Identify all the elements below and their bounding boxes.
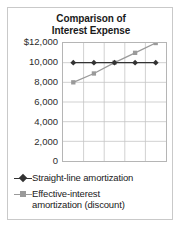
plot-region: $12,000 10,000 8,000 6,000 4,000 2,000 0 [8,42,174,168]
legend-item-straight-line[interactable]: Straight-line amortization [14,172,172,185]
data-point-0-1 [91,60,97,66]
plot-svg [63,43,166,161]
y-axis-tick-4000: 4,000 [8,117,58,127]
legend-marker-effective-interest-icon [14,189,32,201]
y-axis-labels: $12,000 10,000 8,000 6,000 4,000 2,000 0 [8,42,60,162]
data-point-1-0 [71,80,75,84]
y-axis-tick-12000: $12,000 [8,37,58,47]
legend-label-effective-interest: Effective-interest amortization (discoun… [32,188,125,210]
data-point-0-4 [153,60,159,66]
data-point-0-0 [70,60,76,66]
legend-label-straight-line-line-1: Straight-line amortization [32,172,133,183]
y-axis-tick-0: 0 [8,156,58,166]
data-point-0-3 [132,60,138,66]
chart-title-line-1: Comparison of [8,13,174,25]
chart-legend: Straight-line amortization Effective-int… [14,172,172,213]
legend-item-effective-interest[interactable]: Effective-interest amortization (discoun… [14,188,172,210]
data-point-1-4 [154,43,158,45]
y-axis-tick-6000: 6,000 [8,97,58,107]
chart-card: Comparison of Interest Expense $12,000 1… [7,7,173,220]
legend-label-effective-interest-line-1: Effective-interest [32,188,125,199]
legend-marker-straight-line-icon [14,173,32,185]
data-point-1-1 [92,71,96,75]
y-axis-tick-8000: 8,000 [8,77,58,87]
legend-label-effective-interest-line-2: amortization (discount) [32,199,125,210]
data-point-1-3 [133,51,137,55]
plot-area [62,42,167,162]
chart-title: Comparison of Interest Expense [8,13,174,37]
y-axis-tick-2000: 2,000 [8,137,58,147]
y-axis-tick-10000: 10,000 [8,57,58,67]
legend-label-straight-line: Straight-line amortization [32,172,133,183]
